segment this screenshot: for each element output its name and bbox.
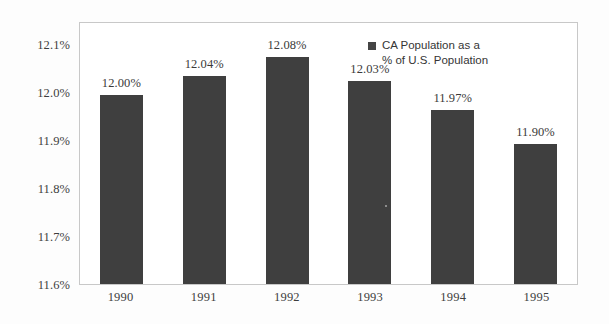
bar-value-label: 11.97% <box>433 91 472 106</box>
x-tick-label-1995: 1995 <box>495 290 578 312</box>
y-tick-label: 11.6% <box>38 278 70 293</box>
x-tick-label-1994: 1994 <box>412 290 495 312</box>
x-tick-label-1991: 1991 <box>162 290 245 312</box>
bars-layer: 12.00% 12.04% 12.08% 12.03% <box>80 23 577 284</box>
bar-value-label: 12.04% <box>185 57 224 72</box>
x-axis: 1990 1991 1992 1993 1994 1995 <box>79 290 578 312</box>
y-tick-label: 11.7% <box>38 230 70 245</box>
bar-value-label: 12.00% <box>102 76 141 91</box>
y-tick-label: 11.8% <box>38 182 70 197</box>
y-axis: 12.1% 12.0% 11.9% 11.8% 11.7% 11.6% <box>0 0 79 324</box>
bar-slot: 12.04% <box>163 23 246 284</box>
bar-chart-figure: 12.1% 12.0% 11.9% 11.8% 11.7% 11.6% 12.0… <box>0 0 609 324</box>
bar-1995[interactable]: 11.90% <box>514 144 557 284</box>
bar-value-label: 12.08% <box>267 38 306 53</box>
legend-label: CA Population as a % of U.S. Population <box>382 38 488 68</box>
x-tick-label-1992: 1992 <box>245 290 328 312</box>
bar-1994[interactable]: 11.97% <box>431 110 474 284</box>
bar-slot: 11.90% <box>494 23 577 284</box>
bar-1992[interactable]: 12.08% <box>266 57 309 284</box>
y-tick-label: 12.1% <box>37 38 70 53</box>
bar-1990[interactable]: 12.00% <box>100 95 143 284</box>
bar-slot: 12.08% <box>246 23 329 284</box>
scan-artifact-speck <box>385 205 387 207</box>
square-marker-icon <box>368 42 376 50</box>
y-tick-label: 11.9% <box>38 134 70 149</box>
x-tick-label-1993: 1993 <box>329 290 412 312</box>
plot-area: 12.00% 12.04% 12.08% 12.03% <box>79 22 578 285</box>
bar-value-label: 11.90% <box>516 125 555 140</box>
chart-legend: CA Population as a % of U.S. Population <box>368 38 488 68</box>
bar-1993[interactable]: 12.03% <box>348 81 391 284</box>
bar-slot: 12.00% <box>80 23 163 284</box>
y-tick-label: 12.0% <box>37 86 70 101</box>
bar-1991[interactable]: 12.04% <box>183 76 226 284</box>
x-tick-label-1990: 1990 <box>79 290 162 312</box>
